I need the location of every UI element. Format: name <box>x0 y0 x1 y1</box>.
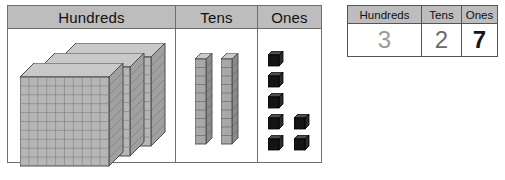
unit-cube-icon <box>268 135 284 151</box>
ten-rod-icon <box>195 53 213 149</box>
blocks-cell-hundreds <box>8 29 175 162</box>
unit-cube-icon <box>268 114 284 130</box>
digit-table-header-row: Hundreds Tens Ones <box>348 6 497 24</box>
unit-cube-icon <box>294 114 310 130</box>
digit-value-tens[interactable]: 2 <box>421 24 461 56</box>
unit-cube-icon <box>268 51 284 67</box>
blocks-cell-tens <box>175 29 257 162</box>
digit-value-hundreds[interactable]: 3 <box>348 24 421 56</box>
unit-cube-group <box>268 51 320 161</box>
blocks-header-tens: Tens <box>175 6 257 29</box>
ten-rod-group <box>176 53 257 153</box>
digit-table-body: 3 2 7 <box>348 24 497 56</box>
digit-value-ones[interactable]: 7 <box>461 24 497 56</box>
blocks-table-body <box>8 29 321 162</box>
unit-cube-icon <box>294 135 310 151</box>
blocks-cell-ones <box>257 29 321 162</box>
base-ten-blocks-table: Hundreds Tens Ones <box>7 5 322 163</box>
unit-cube-icon <box>268 72 284 88</box>
worksheet-canvas: Hundreds Tens Ones <box>0 0 505 180</box>
digit-header-hundreds: Hundreds <box>348 6 421 24</box>
blocks-table-header-row: Hundreds Tens Ones <box>8 6 321 29</box>
hundred-flat-stack <box>20 39 165 159</box>
blocks-header-ones: Ones <box>257 6 321 29</box>
ten-rod-icon <box>221 53 239 149</box>
digit-header-tens: Tens <box>421 6 461 24</box>
blocks-header-hundreds: Hundreds <box>8 6 175 29</box>
unit-cube-icon <box>268 93 284 109</box>
place-value-digit-table: Hundreds Tens Ones 3 2 7 <box>347 5 498 57</box>
digit-header-ones: Ones <box>461 6 497 24</box>
